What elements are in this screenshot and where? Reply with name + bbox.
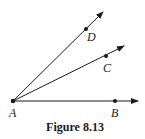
label-c: C <box>103 61 112 75</box>
point-b <box>113 99 117 103</box>
label-b: B <box>111 106 119 120</box>
figure-diagram: A B C D Figure 8.13 <box>0 0 145 139</box>
point-c <box>104 54 108 58</box>
point-a <box>11 99 16 104</box>
label-a: A <box>8 106 17 120</box>
ray-ad <box>13 12 103 101</box>
label-d: D <box>86 30 96 44</box>
figure-caption: Figure 8.13 <box>46 120 104 134</box>
